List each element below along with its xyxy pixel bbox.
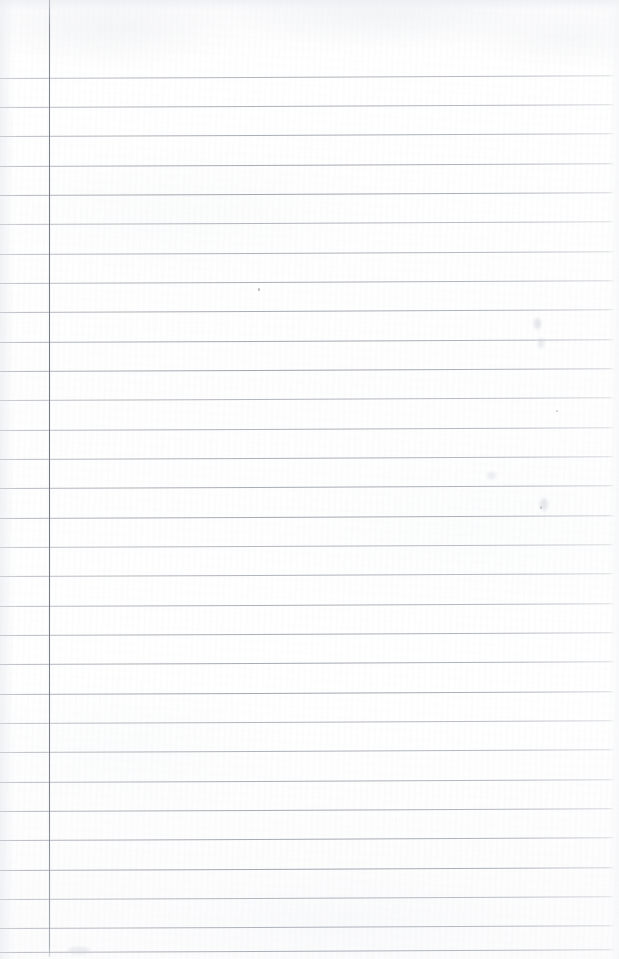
page-handwriting-area[interactable] — [52, 78, 611, 951]
scanned-page — [0, 0, 619, 959]
